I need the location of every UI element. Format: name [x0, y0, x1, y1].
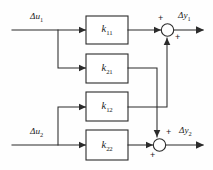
wire-k11-to-sum1	[128, 27, 161, 34]
wire-input-u2	[12, 142, 86, 149]
sign-sum1-left-plus: +	[158, 14, 163, 23]
block-diagram-canvas: k11 k21 k12 k22 Δu1 Δu2 Δy1 Δy2 + + + +	[0, 0, 213, 170]
output-label-y1: Δy1	[178, 11, 191, 22]
input-label-u2: Δu2	[30, 127, 43, 138]
summing-junction-y2[interactable]	[153, 139, 165, 151]
block-label-k12: k12	[86, 101, 128, 114]
wire-branch-u1-to-k21	[58, 30, 86, 71]
wire-input-u1	[12, 27, 86, 34]
summing-junction-y1[interactable]	[161, 24, 173, 36]
sign-sum2-top-plus: +	[166, 128, 171, 137]
block-label-k22: k22	[86, 140, 128, 153]
wire-branch-u2-to-k12	[58, 104, 86, 145]
sign-sum1-bottom-plus: +	[175, 33, 180, 42]
sign-sum2-bottom-plus: +	[150, 151, 155, 160]
output-label-y2: Δy2	[179, 126, 192, 137]
block-label-k21: k21	[86, 63, 128, 76]
input-label-u1: Δu1	[30, 12, 43, 23]
block-label-k11: k11	[86, 24, 128, 37]
wire-k12-to-sum1	[128, 38, 170, 107]
wire-k21-to-sum2	[128, 68, 160, 137]
wire-k22-to-sum2	[128, 142, 153, 149]
wire-output-y2	[166, 141, 204, 148]
